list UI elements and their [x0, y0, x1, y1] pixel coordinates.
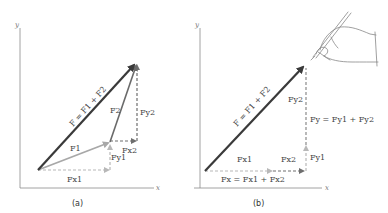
panel-b: y x F = F1 + F2 Fx1 Fx2 Fy1 Fy2 Fy = Fy1…: [194, 12, 378, 208]
resultant-label: F = F1 + F2: [68, 85, 108, 128]
fy1-label: Fy1: [310, 153, 325, 162]
fy1-label: Fy1: [111, 153, 126, 162]
f1-label: F1: [70, 144, 81, 153]
caption-b: (b): [253, 199, 264, 208]
panel-a: y x F = F1 + F2 F1 F2 Fy2 Fx2 Fy1 Fx1 (a…: [14, 21, 160, 208]
fx-sum-label: Fx = Fx1 + Fx2: [221, 175, 285, 184]
x-axis-label: x: [156, 184, 160, 192]
x-axis-label: x: [325, 184, 329, 192]
y-axis-label: y: [14, 21, 20, 29]
fy2-label: Fy2: [140, 108, 155, 117]
caption-a: (a): [72, 199, 83, 208]
fy2-label: Fy2: [288, 95, 303, 104]
f2-label: F2: [110, 106, 121, 115]
vector-addition-diagram: y x F = F1 + F2 F1 F2 Fy2 Fx2 Fy1 Fx1 (a…: [0, 0, 388, 213]
fy-sum-label: Fy = Fy1 + Fy2: [310, 115, 374, 124]
hand-drawing-icon: [311, 12, 378, 66]
fx2-label: Fx2: [281, 155, 296, 164]
fx1-label: Fx1: [67, 175, 82, 184]
y-axis-label: y: [194, 21, 200, 29]
fx1-label: Fx1: [237, 155, 252, 164]
